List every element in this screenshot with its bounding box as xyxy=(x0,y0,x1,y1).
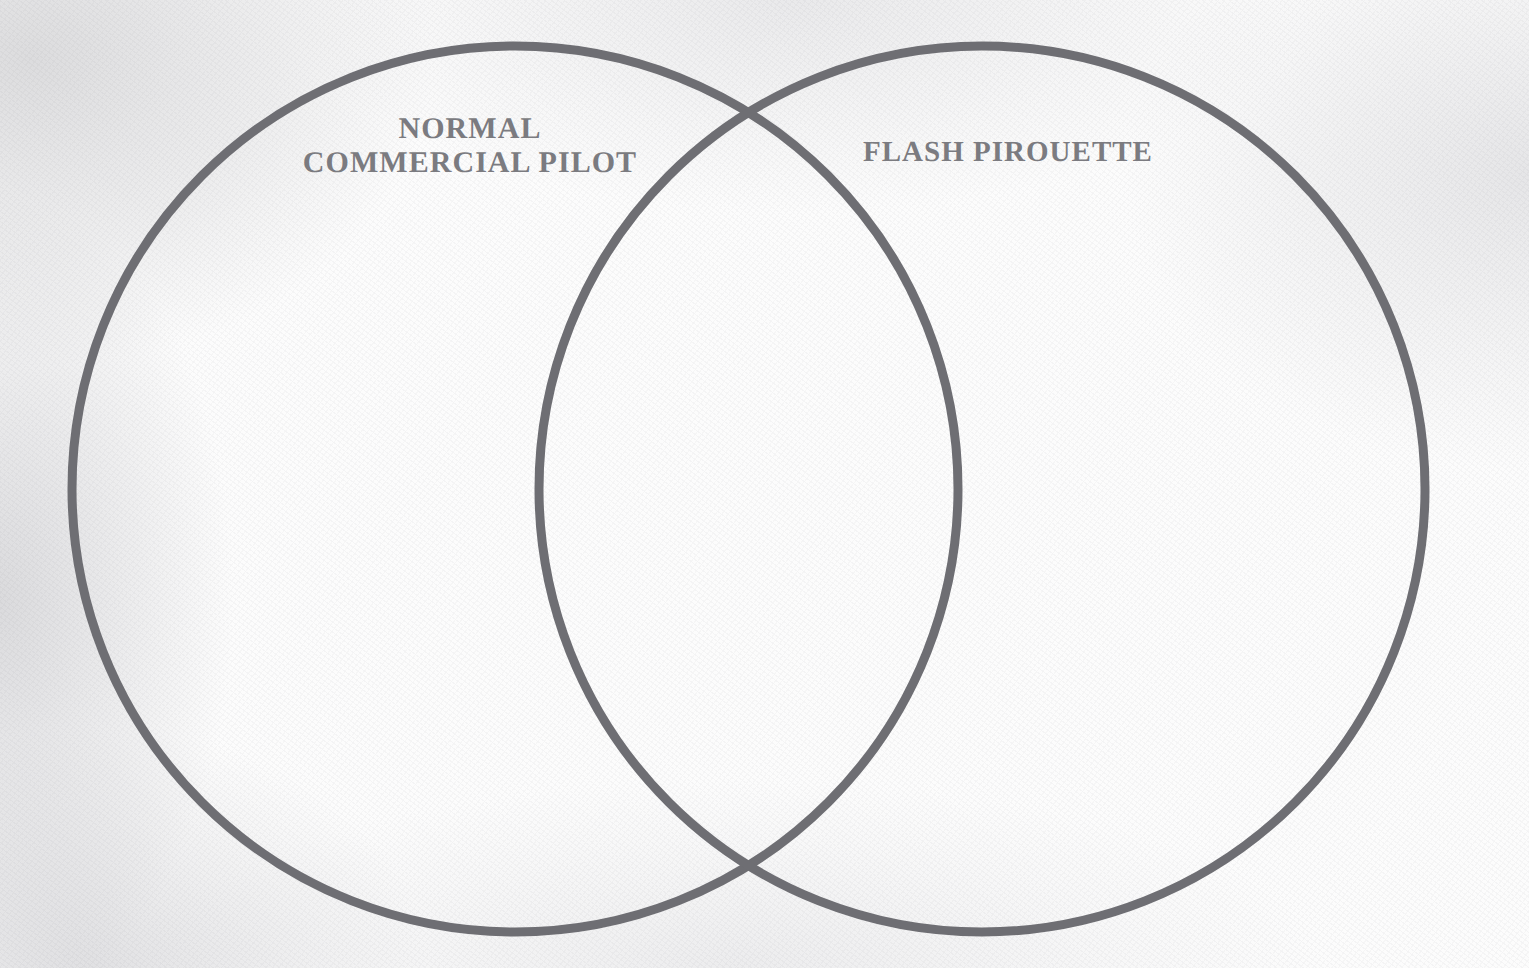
venn-diagram-page: NORMAL COMMERCIAL PILOT FLASH PIROUETTE xyxy=(0,0,1529,968)
venn-diagram-figure xyxy=(0,0,1529,968)
venn-circle-right[interactable] xyxy=(539,46,1425,932)
venn-label-left: NORMAL COMMERCIAL PILOT xyxy=(270,112,670,180)
venn-label-right: FLASH PIROUETTE xyxy=(812,136,1204,169)
